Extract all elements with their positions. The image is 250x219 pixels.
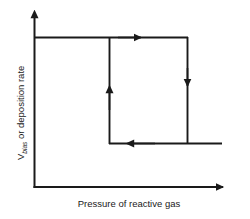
y-axis-label-rest: or deposition rate <box>15 66 26 142</box>
y-axis-label-subscript: bias <box>21 141 28 154</box>
hysteresis-loop-group <box>34 37 222 144</box>
y-axis-label: Vbias or deposition rate <box>15 66 28 160</box>
hysteresis-figure: Vbias or deposition rate Pressure of rea… <box>0 0 250 219</box>
y-axis-label-group: Vbias or deposition rate <box>15 66 28 160</box>
x-axis-label: Pressure of reactive gas <box>78 198 181 209</box>
axes-group <box>34 17 224 188</box>
hysteresis-diagram-svg: Vbias or deposition rate Pressure of rea… <box>0 0 250 219</box>
